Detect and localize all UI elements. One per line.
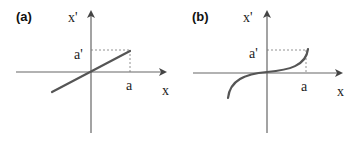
x-marker-label: a: [301, 79, 308, 94]
diagram-svg: (a) x' a' a x (b): [0, 0, 360, 143]
panel-b: (b) x' a' a x: [192, 9, 344, 133]
y-marker-label: a': [74, 47, 83, 62]
panel-a-label: (a): [16, 9, 32, 24]
x-axis-label: x: [162, 83, 169, 98]
x-marker-label: a: [126, 78, 133, 93]
diagram-canvas: (a) x' a' a x (b): [0, 0, 360, 143]
panel-a: (a) x' a' a x: [16, 9, 169, 133]
y-axis-label: x': [243, 10, 253, 25]
x-axis-label: x: [337, 84, 344, 99]
y-axis-label: x': [68, 10, 78, 25]
y-marker-label: a': [249, 46, 258, 61]
panel-b-label: (b): [192, 9, 209, 24]
